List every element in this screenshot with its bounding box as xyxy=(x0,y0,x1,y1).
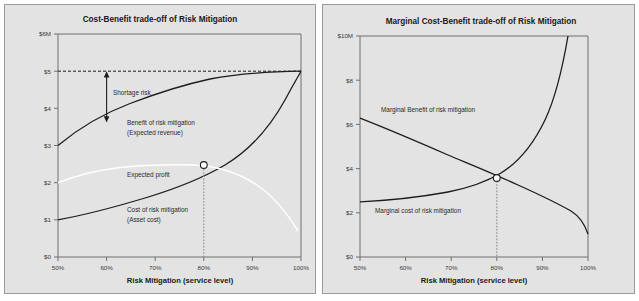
right-chart-panel: Marginal Cost-Benefit trade-off of Risk … xyxy=(322,4,635,294)
cost-curve xyxy=(58,71,301,220)
left-xtick-100: 100% xyxy=(293,264,309,271)
left-chart-title: Cost-Benefit trade-off of Risk Mitigatio… xyxy=(83,15,238,24)
left-ytick-4: $4 xyxy=(44,105,51,112)
cost-label-line1: Cost of risk mitigation xyxy=(127,206,189,214)
right-ytick-2: $2 xyxy=(346,209,353,216)
right-ytick-0: $0 xyxy=(346,253,353,260)
left-y-ticks: $0 $1 $2 $3 $4 $5 $6M xyxy=(39,30,58,260)
left-xtick-80: 80% xyxy=(198,264,211,271)
left-axes-frame xyxy=(58,34,301,257)
shortage-risk-label: Shortage risk xyxy=(113,89,151,97)
right-x-axis-title: Risk Mitigation (service level) xyxy=(421,276,528,285)
expected-profit-curve xyxy=(58,165,298,231)
left-xtick-90: 90% xyxy=(246,264,259,271)
left-ytick-6: $6M xyxy=(39,30,51,37)
left-chart-panel: Cost-Benefit trade-off of Risk Mitigatio… xyxy=(4,4,316,294)
right-xtick-80: 80% xyxy=(491,264,504,271)
marginal-benefit-label: Marginal Benefit of risk mitigation xyxy=(381,106,476,114)
right-xtick-100: 100% xyxy=(580,264,596,271)
left-ytick-1: $1 xyxy=(44,216,51,223)
right-ytick-10: $10M xyxy=(338,32,353,39)
right-xtick-90: 90% xyxy=(536,264,549,271)
right-axes-frame xyxy=(360,36,588,257)
marginal-cost-label: Marginal cost of risk mitigation xyxy=(375,207,461,215)
figure-container: Cost-Benefit trade-off of Risk Mitigatio… xyxy=(0,0,639,301)
left-ytick-5: $5 xyxy=(44,68,51,75)
left-xtick-60: 60% xyxy=(100,264,113,271)
left-x-axis-title: Risk Mitigation (service level) xyxy=(127,276,234,285)
cost-label-line2: (Asset cost) xyxy=(127,216,161,224)
benefit-label-line1: Benefit of risk mitigation xyxy=(127,119,195,127)
right-intersection-marker xyxy=(493,175,500,182)
expected-profit-label: Expected profit xyxy=(127,171,170,179)
left-x-ticks: 50% 60% 70% 80% 90% 100% xyxy=(52,257,310,271)
marginal-benefit-curve xyxy=(360,118,588,234)
left-xtick-70: 70% xyxy=(149,264,162,271)
left-optimum-marker xyxy=(200,162,207,169)
right-ytick-8: $8 xyxy=(346,77,353,84)
left-xtick-50: 50% xyxy=(52,264,65,271)
benefit-label-line2: (Expected revenue) xyxy=(127,129,183,137)
right-ytick-6: $6 xyxy=(346,121,353,128)
left-axes-top-right xyxy=(58,34,301,257)
right-chart-title: Marginal Cost-Benefit trade-off of Risk … xyxy=(386,17,577,26)
marginal-cost-curve xyxy=(360,36,568,202)
marginal-cost-benefit-chart-svg: Marginal Cost-Benefit trade-off of Risk … xyxy=(323,5,634,293)
right-xtick-60: 60% xyxy=(399,264,412,271)
right-ytick-4: $4 xyxy=(346,165,353,172)
right-xtick-50: 50% xyxy=(354,264,367,271)
left-ytick-2: $2 xyxy=(44,179,51,186)
left-ytick-3: $3 xyxy=(44,142,51,149)
right-axes-top-right xyxy=(360,36,588,257)
right-y-ticks: $0 $2 $4 $6 $8 $10M xyxy=(338,32,360,260)
cost-benefit-chart-svg: Cost-Benefit trade-off of Risk Mitigatio… xyxy=(5,5,315,293)
right-xtick-70: 70% xyxy=(445,264,458,271)
left-ytick-0: $0 xyxy=(44,253,51,260)
right-x-ticks: 50% 60% 70% 80% 90% 100% xyxy=(354,257,597,271)
